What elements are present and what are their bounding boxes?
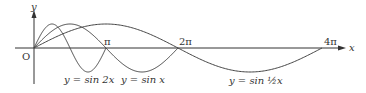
tick-pi: π: [104, 36, 111, 47]
tick-4pi: 4π: [324, 36, 337, 47]
sine-graphs-diagram: y x O π 2π 4π y = sin 2x y = sin x y = s…: [0, 0, 366, 93]
label-sinx: y = sin x: [120, 74, 165, 85]
label-sin2x: y = sin 2x: [63, 74, 115, 85]
tick-2pi: 2π: [179, 36, 192, 47]
x-axis-label: x: [349, 42, 355, 53]
y-axis-label: y: [30, 1, 37, 12]
x-axis-arrow-icon: [338, 46, 346, 51]
label-sinhalfx: y = sin ½x: [228, 75, 283, 86]
origin-label: O: [22, 51, 30, 62]
